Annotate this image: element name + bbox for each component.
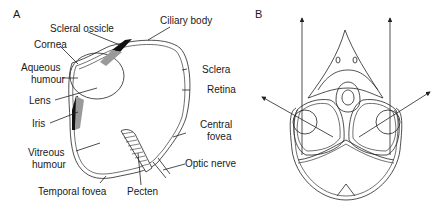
center-ornament-inner (342, 90, 354, 105)
label-iris: Iris (32, 118, 45, 129)
nostril-right (353, 57, 357, 63)
label-retina: Retina (207, 84, 236, 95)
head-outline (290, 108, 402, 200)
cranium-divider (298, 140, 394, 160)
retina-outline (73, 44, 185, 174)
label-ciliary-body: Ciliary body (160, 15, 212, 26)
label-sclera: Sclera (202, 64, 231, 75)
label-lens: Lens (29, 95, 51, 106)
label-temporal-fovea: Temporal fovea (38, 186, 107, 197)
head-outline-inner (294, 110, 398, 196)
left-orbit (294, 99, 344, 155)
beak-inner-curve (318, 70, 378, 90)
label-scleral-ossicle: Scleral ossicle (50, 23, 114, 34)
label-central-fovea-2: fovea (207, 131, 232, 142)
center-ornament-outer (336, 82, 360, 112)
label-vitreous-humour-1: Vitreous (28, 147, 65, 158)
skull-top-view (290, 30, 402, 200)
pecten (121, 130, 152, 172)
visual-axis-arrows (262, 18, 430, 155)
left-orbit-inner (297, 103, 340, 151)
label-aqueous-humour-2: humour (31, 74, 66, 85)
label-vitreous-humour-2: humour (32, 159, 67, 170)
lens (70, 53, 124, 99)
scleral-ossicle (112, 39, 132, 52)
occipital-notch (337, 184, 355, 196)
panel-a-letter: A (13, 8, 21, 20)
nostril-left (336, 57, 340, 63)
label-central-fovea-1: Central (200, 119, 232, 130)
panel-b-letter: B (255, 8, 262, 20)
eye-anatomy-figure: A (0, 0, 436, 209)
label-aqueous-humour-1: Aqueous (21, 62, 60, 73)
sclera-outline (69, 40, 190, 178)
cranium-divider-inner (298, 144, 394, 163)
label-pecten: Pecten (127, 186, 158, 197)
eye-cross-section (69, 39, 190, 178)
left-eye-circle (293, 110, 317, 134)
optic-nerve-line-2 (158, 158, 170, 174)
label-optic-nerve: Optic nerve (185, 158, 237, 169)
label-cornea: Cornea (34, 39, 67, 50)
right-lateral-arrow (359, 92, 430, 137)
